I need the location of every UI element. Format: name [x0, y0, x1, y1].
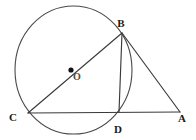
label-center-o: O [73, 71, 81, 82]
segment-bd-altitude [119, 33, 122, 112]
segment-ca-base [28, 112, 180, 113]
label-vertex-c: C [9, 111, 17, 123]
segment-ba-tangent [122, 33, 180, 112]
label-vertex-d: D [114, 123, 122, 135]
label-vertex-b: B [117, 17, 125, 29]
label-vertex-a: A [178, 112, 186, 124]
geometry-figure: O B C D A [0, 0, 196, 140]
geometry-canvas: O B C D A [0, 0, 196, 140]
